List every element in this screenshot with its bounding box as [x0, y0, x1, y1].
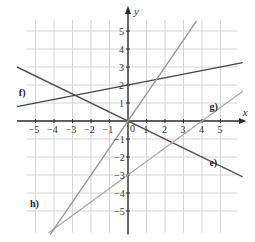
line-label-g: g): [209, 101, 217, 113]
x-tick-label: 2: [162, 124, 167, 135]
labels: xy−5−4−3−2−112345−5−4−3−2−1123450e)f)g)h…: [19, 5, 248, 217]
x-tick-label: −2: [84, 124, 95, 135]
x-tick-label: 4: [199, 124, 204, 135]
y-tick-label: 4: [119, 44, 124, 55]
coordinate-plane: xy−5−4−3−2−112345−5−4−3−2−1123450e)f)g)h…: [0, 0, 255, 242]
y-tick-label: −4: [114, 188, 125, 199]
y-tick-label: −5: [114, 206, 125, 217]
x-axis-label: x: [242, 106, 248, 118]
x-tick-label: 1: [144, 124, 149, 135]
y-axis-label: y: [133, 5, 139, 17]
axes: [17, 6, 246, 235]
x-tick-label: −3: [66, 124, 77, 135]
y-tick-label: 5: [119, 26, 124, 37]
y-tick-label: −2: [114, 152, 125, 163]
origin-label: 0: [130, 123, 135, 134]
y-tick-label: 1: [119, 98, 124, 109]
x-tick-label: 3: [181, 124, 186, 135]
line-label-f: f): [19, 87, 26, 99]
x-tick-label: −1: [103, 124, 114, 135]
y-tick-label: −1: [114, 134, 125, 145]
x-axis-arrow-icon: [239, 118, 246, 124]
x-tick-label: −5: [29, 124, 40, 135]
line-label-e: e): [209, 157, 217, 169]
y-tick-label: 2: [119, 80, 124, 91]
y-tick-label: −3: [114, 170, 125, 181]
x-tick-label: −4: [47, 124, 58, 135]
x-tick-label: 5: [218, 124, 223, 135]
y-tick-label: 3: [119, 62, 124, 73]
line-label-h: h): [30, 198, 39, 210]
y-axis-arrow-icon: [125, 6, 131, 14]
